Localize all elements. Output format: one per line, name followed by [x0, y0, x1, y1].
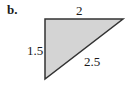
top-side-length: 2	[76, 4, 83, 17]
right-triangle-shape	[0, 0, 127, 93]
hypotenuse-length: 2.5	[84, 55, 100, 68]
left-side-length: 1.5	[27, 44, 43, 57]
part-label: b.	[7, 3, 17, 16]
triangle-figure: b. 2 1.5 2.5	[0, 0, 127, 93]
triangle-polygon	[45, 19, 123, 79]
